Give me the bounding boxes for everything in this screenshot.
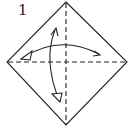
vertical-fold-arrow-curve — [50, 30, 59, 100]
paper-square-outline — [7, 2, 127, 125]
origami-step-diagram: 1 — [0, 0, 131, 129]
open-arrowhead-down-icon — [52, 93, 62, 102]
diagram-drawing — [0, 0, 131, 129]
open-arrowhead-left-icon — [21, 51, 32, 60]
horizontal-fold-arrow-curve — [24, 45, 99, 57]
